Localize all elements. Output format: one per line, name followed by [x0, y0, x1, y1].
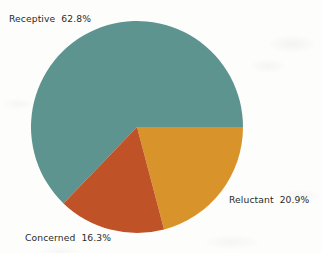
slice-label-concerned: Concerned 16.3% [25, 232, 111, 243]
pie-chart-figure: Receptive 62.8% Reluctant 20.9% Concerne… [0, 0, 322, 253]
pie-chart-graphic [0, 0, 322, 253]
slice-label-reluctant: Reluctant 20.9% [229, 194, 309, 205]
pie-slice-group [31, 21, 243, 233]
slice-label-receptive: Receptive 62.8% [9, 13, 91, 24]
